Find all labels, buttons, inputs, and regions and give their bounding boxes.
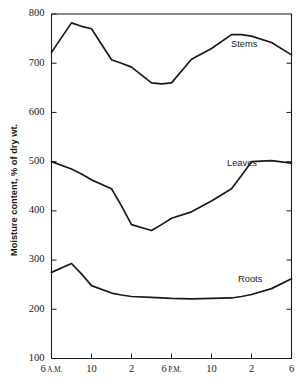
series-line-leaves (52, 161, 292, 231)
y-tick-labels: 800700600500400300200100 (29, 7, 45, 363)
series-line-stems (52, 23, 292, 84)
y-tick-label: 600 (29, 106, 45, 117)
x-tick-marks (52, 354, 292, 359)
y-tick-label: 400 (29, 204, 45, 215)
x-tick-label: 6 (289, 363, 294, 374)
x-tick-label: 2 (129, 363, 134, 374)
x-tick-labels: 6A.M.1026P.M.1026 (41, 363, 295, 374)
y-tick-label: 100 (29, 352, 45, 363)
x-tick-label: 2 (249, 363, 254, 374)
x-tick-label: 10 (206, 363, 217, 374)
chart-figure: 800700600500400300200100 6A.M.1026P.M.10… (0, 0, 307, 391)
line-chart: 800700600500400300200100 6A.M.1026P.M.10… (0, 0, 307, 391)
series-label-stems: Stems (231, 39, 258, 49)
y-tick-label: 800 (29, 7, 45, 18)
x-tick-label: 6P.M. (162, 363, 182, 374)
y-tick-label: 300 (29, 253, 45, 264)
y-tick-label: 500 (29, 155, 45, 166)
series-label-leaves: Leaves (227, 158, 257, 168)
y-tick-label: 200 (29, 303, 45, 314)
y-tick-marks (52, 14, 292, 359)
y-axis-title: Moisture content, % of dry wt. (9, 124, 19, 256)
x-tick-label: 10 (86, 363, 97, 374)
x-tick-label: 6A.M. (41, 363, 63, 374)
series-label-roots: Roots (238, 274, 263, 284)
y-tick-label: 700 (29, 57, 45, 68)
